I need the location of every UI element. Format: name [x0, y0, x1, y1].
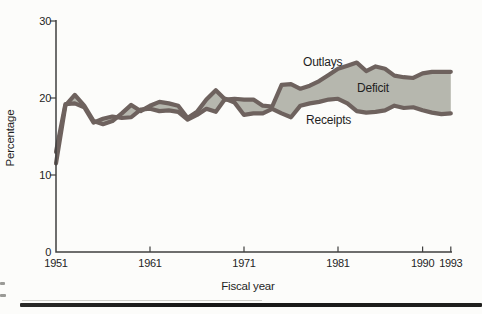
y-tick-label: 0: [24, 246, 51, 258]
scan-artifact: [0, 294, 6, 297]
x-tick-label: 1993: [431, 257, 471, 269]
axes: [56, 20, 452, 252]
scan-artifact: [0, 282, 5, 285]
y-tick-label: 20: [24, 92, 51, 104]
y-tick-label: 30: [24, 15, 51, 27]
x-tick-label: 1981: [318, 257, 358, 269]
outlays-series-label: Outlays: [303, 55, 342, 69]
y-axis-title: Percentage: [4, 58, 18, 218]
x-tick-label: 1951: [36, 257, 76, 269]
figure: Percentage Fiscal year Outlays Deficit R…: [0, 0, 482, 314]
x-axis-title: Fiscal year: [178, 280, 318, 292]
deficit-band-label: Deficit: [357, 81, 389, 95]
y-tick-label: 10: [24, 169, 51, 181]
rule-highlight: [22, 300, 262, 301]
bottom-rule: [20, 303, 482, 307]
receipts-series-label: Receipts: [306, 113, 351, 127]
x-tick-label: 1961: [130, 257, 170, 269]
x-tick-label: 1971: [224, 257, 264, 269]
